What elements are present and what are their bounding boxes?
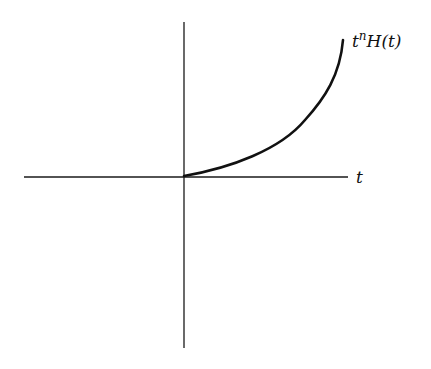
diagram-canvas: t tnH(t) <box>0 0 431 369</box>
curve-label-exponent: n <box>359 29 367 43</box>
x-axis-label: t <box>356 167 363 187</box>
function-curve <box>184 40 343 176</box>
curve-label: tnH(t) <box>352 29 402 51</box>
curve-label-function: H(t) <box>366 31 402 51</box>
